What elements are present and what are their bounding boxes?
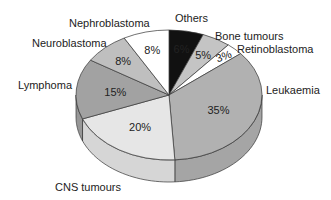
label-retinoblastoma: Retinoblastoma	[237, 43, 313, 55]
value-label-leukaemia: 35%	[207, 104, 229, 116]
value-label-others: 6%	[174, 43, 190, 55]
value-label-lymphoma: 15%	[104, 86, 126, 98]
value-label-nephroblastoma: 8%	[144, 44, 160, 56]
value-label-cns-tumours: 20%	[129, 121, 151, 133]
label-neuroblastoma: Neuroblastoma	[32, 37, 107, 49]
label-nephroblastoma: Nephroblastoma	[69, 17, 150, 29]
label-others: Others	[175, 12, 208, 24]
label-cns-tumours: CNS tumours	[55, 181, 121, 193]
value-label-bone-tumours: 5%	[195, 49, 211, 61]
label-leukaemia: Leukaemia	[266, 84, 320, 96]
value-label-neuroblastoma: 8%	[115, 55, 131, 67]
label-lymphoma: Lymphoma	[18, 79, 72, 91]
label-bone-tumours: Bone tumours	[215, 30, 283, 42]
